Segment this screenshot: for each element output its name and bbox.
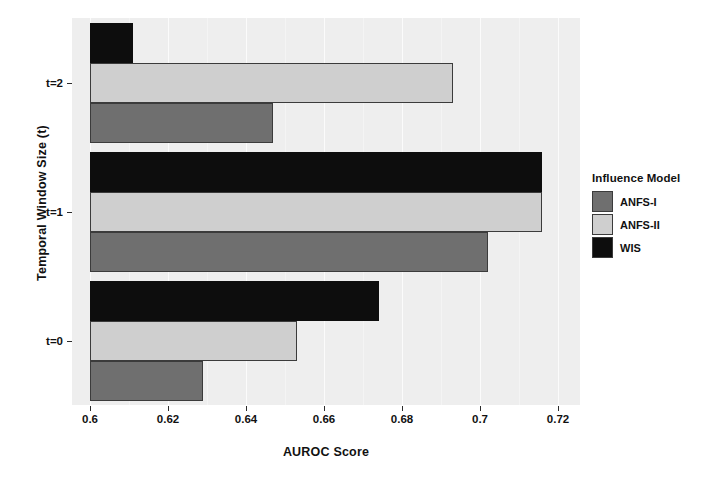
bar-anfs-ii-t0 (90, 321, 297, 361)
legend: Influence Model ANFS-IANFS-IIWIS (592, 172, 697, 259)
y-tick-mark (67, 212, 72, 213)
x-tick-label: 0.72 (528, 413, 588, 425)
legend-item: WIS (592, 236, 697, 259)
legend-item: ANFS-I (592, 190, 697, 213)
legend-swatch-anfs-i (592, 191, 613, 212)
bar-anfs-i-t0 (90, 361, 203, 401)
x-tick-mark (558, 406, 559, 411)
plot-panel (72, 18, 580, 405)
x-tick-mark (402, 406, 403, 411)
legend-label: ANFS-I (620, 196, 657, 208)
bar-wis-t0 (90, 281, 379, 321)
legend-item: ANFS-II (592, 213, 697, 236)
bar-wis-t1 (90, 152, 542, 192)
bar-anfs-i-t1 (90, 232, 488, 272)
y-tick-label: t=2 (10, 77, 63, 89)
x-tick-mark (246, 406, 247, 411)
x-tick-mark (324, 406, 325, 411)
bar-chart-figure: Temporal Window Size (t) 0.60.620.640.66… (0, 0, 703, 480)
legend-title: Influence Model (592, 172, 697, 184)
x-tick-mark (90, 406, 91, 411)
bar-anfs-ii-t2 (90, 63, 453, 103)
x-axis-title: AUROC Score (72, 445, 580, 459)
legend-swatch-anfs-ii (592, 214, 613, 235)
legend-label: ANFS-II (620, 219, 660, 231)
bar-anfs-ii-t1 (90, 192, 542, 232)
x-tick-label: 0.64 (216, 413, 276, 425)
x-tick-label: 0.7 (450, 413, 510, 425)
legend-swatch-wis (592, 237, 613, 258)
y-tick-mark (67, 341, 72, 342)
y-tick-mark (67, 83, 72, 84)
y-tick-label: t=0 (10, 335, 63, 347)
x-tick-label: 0.6 (60, 413, 120, 425)
y-axis-title: Temporal Window Size (t) (35, 43, 49, 363)
x-tick-label: 0.66 (294, 413, 354, 425)
x-tick-mark (168, 406, 169, 411)
y-tick-label: t=1 (10, 206, 63, 218)
x-tick-mark (480, 406, 481, 411)
legend-label: WIS (620, 242, 641, 254)
bar-wis-t2 (90, 23, 133, 63)
grid-line-major (558, 18, 559, 405)
x-tick-label: 0.62 (138, 413, 198, 425)
x-tick-label: 0.68 (372, 413, 432, 425)
bar-anfs-i-t2 (90, 103, 273, 143)
legend-items: ANFS-IANFS-IIWIS (592, 190, 697, 259)
